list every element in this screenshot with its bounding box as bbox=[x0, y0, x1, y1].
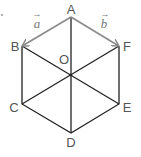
stray-dot bbox=[1, 14, 3, 16]
vertex-label-A: A bbox=[67, 2, 76, 17]
center-point bbox=[70, 74, 72, 76]
vector-a-arrow bbox=[23, 17, 71, 46]
vertex-label-D: D bbox=[66, 135, 75, 150]
vertex-label-C: C bbox=[9, 100, 18, 115]
vertex-label-F: F bbox=[123, 39, 131, 54]
vector-a-arrow-symbol: → bbox=[33, 9, 42, 19]
vertex-label-E: E bbox=[123, 100, 132, 115]
center-label-O: O bbox=[59, 52, 69, 67]
vector-b-arrow bbox=[71, 17, 118, 46]
vertex-label-B: B bbox=[11, 39, 20, 54]
hexagon-diagram: A B C D E F O a → b → bbox=[0, 0, 141, 157]
vector-b-arrow-symbol: → bbox=[101, 9, 110, 19]
